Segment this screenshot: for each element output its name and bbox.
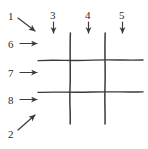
annotation-label-8: 8 xyxy=(8,95,14,106)
horizontal-line-top xyxy=(38,60,143,61)
annotation-label-7: 7 xyxy=(8,68,14,79)
annotation-label-4: 4 xyxy=(85,10,91,21)
diagonal-up-right-arrow xyxy=(18,115,35,130)
grid-strokes xyxy=(38,33,143,124)
vertical-line-left xyxy=(70,33,71,124)
diagonal-down-right-arrow xyxy=(18,18,35,31)
hand-drawn-grid-annotation-diagram: 1 3 4 5 6 7 8 2 xyxy=(0,0,148,149)
horizontal-line-bottom xyxy=(38,92,143,93)
annotation-label-3: 3 xyxy=(50,10,56,21)
annotation-label-2: 2 xyxy=(8,129,14,140)
annotation-label-6: 6 xyxy=(8,39,14,50)
annotation-label-5: 5 xyxy=(119,10,125,21)
diagram-canvas xyxy=(0,0,148,149)
annotation-label-1: 1 xyxy=(8,11,14,22)
